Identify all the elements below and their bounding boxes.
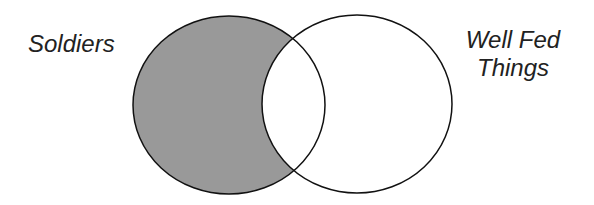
soldiers-label: Soldiers bbox=[28, 30, 115, 58]
label-line-1: Well Fed bbox=[458, 26, 568, 54]
label-line-2: Things bbox=[458, 54, 568, 82]
well-fed-things-label: Well Fed Things bbox=[458, 26, 568, 82]
intersection-region bbox=[262, 15, 452, 193]
